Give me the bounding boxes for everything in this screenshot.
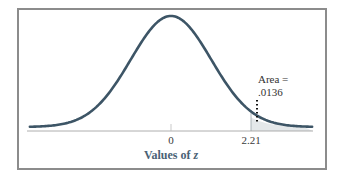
x-axis-title-text: Values of — [144, 148, 194, 162]
x-axis-title-variable: z — [193, 148, 198, 162]
area-annotation: Area = .0136 — [258, 73, 288, 99]
area-annotation-value: .0136 — [258, 86, 288, 99]
normal-curve — [30, 16, 312, 127]
x-tick-label-2-21: 2.21 — [241, 134, 260, 146]
area-annotation-line1: Area = — [258, 73, 288, 86]
x-tick-label-0: 0 — [168, 134, 174, 146]
x-axis-title: Values of z — [144, 148, 198, 163]
